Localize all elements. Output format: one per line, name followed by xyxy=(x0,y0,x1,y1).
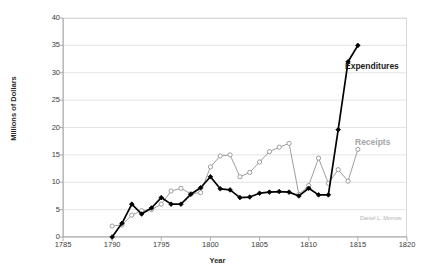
series-label-receipts: Receipts xyxy=(355,138,390,147)
series-label-expenditures: Expenditures xyxy=(345,62,399,71)
chart-container: 0510152025303540 Millions of Dollars 178… xyxy=(0,0,435,274)
attribution-text: Daniel L. Morrow xyxy=(360,216,402,222)
